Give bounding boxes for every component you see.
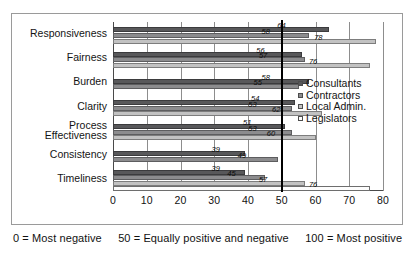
category-label: Clarity — [77, 101, 107, 112]
bar — [113, 135, 316, 140]
bar-value-label: 58 — [262, 74, 270, 82]
legend-label: Consultants — [306, 78, 361, 90]
bar-value-label: 49 — [238, 152, 246, 160]
bar — [113, 84, 299, 89]
chart-frame: 0102030405060708064587856577658555453625… — [11, 13, 403, 225]
bar-value-label: 76 — [309, 58, 317, 66]
bar — [113, 181, 305, 186]
x-axis-tick-label: 70 — [343, 194, 355, 206]
bar-value-label: 55 — [254, 79, 262, 87]
x-axis-tick-label: 20 — [174, 194, 186, 206]
category-label: Responsiveness — [30, 28, 107, 39]
bar — [113, 157, 278, 162]
bar — [113, 100, 295, 105]
category-label: ProcessEffectiveness — [45, 120, 107, 141]
x-axis-tick-label: 40 — [242, 194, 254, 206]
legend-item-legislators: Legislators — [298, 113, 366, 125]
legend-swatch-icon — [298, 104, 303, 109]
bar — [113, 79, 309, 84]
bar-value-label: 76 — [309, 182, 317, 190]
chart-caption: 0 = Most negative 50 = Equally positive … — [13, 232, 402, 244]
bar — [113, 170, 245, 175]
x-axis-tick-label: 10 — [141, 194, 153, 206]
bar-value-label: 78 — [314, 34, 322, 42]
bar — [113, 27, 329, 32]
caption-part-3: 100 = Most positive — [305, 232, 402, 244]
caption-part-2: 50 = Equally positive and negative — [118, 232, 289, 244]
bar-value-label: 39 — [211, 146, 219, 154]
bar — [113, 186, 370, 191]
bar — [113, 151, 245, 156]
chart-page: 0102030405060708064587856577658555453625… — [0, 0, 416, 254]
bar — [113, 111, 322, 116]
bar-value-label: 58 — [262, 28, 270, 36]
legend-swatch-icon — [298, 93, 303, 98]
category-label: Fairness — [67, 52, 107, 63]
bar — [113, 63, 370, 68]
bar-value-label: 62 — [272, 106, 280, 114]
bar-value-label: 53 — [248, 125, 256, 133]
legend-item-consultants: Consultants — [298, 78, 366, 90]
chart-legend: Consultants Contractors Local Admin. Leg… — [298, 78, 366, 124]
bar — [113, 39, 376, 44]
x-axis-tick-label: 50 — [276, 194, 288, 206]
bar — [113, 175, 265, 180]
category-label: Burden — [73, 76, 107, 87]
bar — [113, 57, 305, 62]
legend-label: Legislators — [306, 113, 357, 125]
bar-value-label: 57 — [259, 52, 267, 60]
legend-swatch-icon — [298, 81, 303, 86]
x-axis-tick-label: 60 — [309, 194, 321, 206]
bar-value-label: 60 — [267, 130, 275, 138]
gridline — [383, 22, 384, 191]
bar — [113, 130, 292, 135]
bar — [113, 52, 302, 57]
reference-line-50 — [281, 20, 283, 192]
category-label: Consistency — [50, 149, 107, 160]
bar — [113, 106, 292, 111]
x-axis-tick-label: 30 — [208, 194, 220, 206]
x-axis-tick-label: 0 — [110, 194, 116, 206]
bar — [113, 33, 309, 38]
bar — [113, 124, 285, 129]
bar-value-label: 53 — [248, 101, 256, 109]
category-label: Timeliness — [57, 173, 107, 184]
x-axis-tick-label: 80 — [377, 194, 389, 206]
legend-swatch-icon — [298, 116, 303, 121]
caption-part-1: 0 = Most negative — [13, 232, 102, 244]
bar-value-label: 57 — [259, 176, 267, 184]
bar-value-label: 45 — [227, 170, 235, 178]
bar-value-label: 39 — [211, 165, 219, 173]
